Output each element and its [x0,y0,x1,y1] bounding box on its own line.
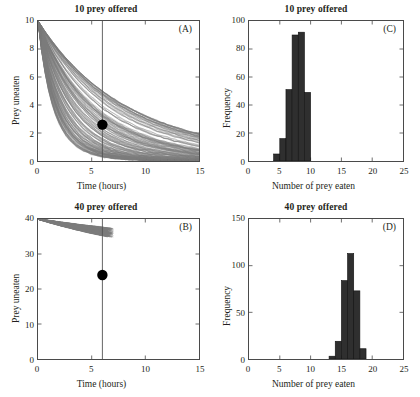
panel-c-ytick-80: 80 [225,43,245,53]
panel-a-title: 10 prey offered [0,4,212,14]
panel-d-x-axis-label: Number of prey eaten [226,379,401,389]
panel-a-letter: (A) [179,24,192,34]
panel-b-xtick-5: 5 [89,364,94,374]
panel-c-ytick-60: 60 [225,72,245,82]
panel-a-mean-marker [97,119,107,129]
panel-a-ytick-8: 8 [16,43,34,53]
histogram-bar [286,90,292,161]
histogram-bar [280,139,286,161]
panel-b-ytick-20: 20 [13,284,34,294]
panel-d-xtick-10: 10 [306,364,315,374]
panel-d-xtick-20: 20 [368,364,377,374]
panel-d-ytick-50: 50 [225,308,245,318]
panel-c-xtick-0: 0 [246,166,251,176]
panel-d-ytick-100: 100 [222,260,245,270]
panel-c-title: 10 prey offered [212,4,420,14]
panel-b-xtick-15: 15 [195,364,204,374]
panel-b-title: 40 prey offered [0,202,212,212]
panel-d-title: 40 prey offered [212,202,420,212]
panel-c-ytick-40: 40 [225,100,245,110]
panel-c-xtick-20: 20 [368,166,377,176]
histogram-bar [354,291,360,359]
histogram-bar [298,32,304,161]
histogram-bar [292,35,298,161]
panel-c-xtick-5: 5 [277,166,282,176]
panel-b-x-axis-label: Time (hours) [14,379,189,389]
panel-d-y-axis-label: Frequency [222,286,232,326]
figure-container: 10 prey offered Prey uneaten Time (hours… [0,0,420,397]
panel-a-plot-area: (A) [37,20,200,162]
panel-a-ytick-0: 0 [16,157,34,167]
panel-c-plot-area: (C) [248,20,404,162]
panel-d-xtick-0: 0 [246,364,251,374]
panel-d-xtick-15: 15 [337,364,346,374]
panel-b-ytick-30: 30 [13,249,34,259]
panel-d-ytick-0: 0 [225,355,245,365]
panel-a-ytick-4: 4 [16,100,34,110]
panel-d-xtick-25: 25 [400,364,409,374]
histogram-bar [348,254,354,359]
panel-b-plot-area: (B) [37,218,200,360]
panel-b-mean-marker [97,270,107,280]
panel-b: 40 prey offered Prey uneaten Time (hours… [0,198,212,397]
panel-c: 10 prey offered Frequency Number of prey… [212,0,420,198]
panel-c-ytick-0: 0 [225,157,245,167]
panel-a-xtick-15: 15 [195,166,204,176]
panel-d-plot-area: (D) [248,218,404,360]
panel-b-ytick-10: 10 [13,320,34,330]
panel-a-x-axis-label: Time (hours) [14,181,189,191]
panel-d-ytick-150: 150 [222,213,245,223]
panel-d-letter: (D) [383,222,396,232]
panel-c-xtick-25: 25 [400,166,409,176]
histogram-bar [335,341,341,359]
panel-c-xtick-10: 10 [306,166,315,176]
panel-a-ytick-2: 2 [16,129,34,139]
histogram-bar [329,356,335,359]
panel-b-ytick-0: 0 [16,355,34,365]
panel-b-y-axis-label: Prey uneaten [11,274,21,323]
panel-a-ytick-10: 10 [16,15,34,25]
panel-a-xtick-10: 10 [141,166,150,176]
histogram-bar [274,154,280,161]
panel-b-ytick-40: 40 [13,213,34,223]
panel-d: 40 prey offered Frequency Number of prey… [212,198,420,397]
panel-a: 10 prey offered Prey uneaten Time (hours… [0,0,212,198]
panel-c-ytick-100: 100 [222,15,245,25]
panel-c-chart [249,21,403,161]
histogram-bar [304,92,310,161]
panel-c-x-axis-label: Number of prey eaten [226,181,401,191]
panel-c-ytick-20: 20 [225,129,245,139]
panel-a-ytick-6: 6 [16,72,34,82]
histogram-bar [341,281,347,359]
panel-b-xtick-0: 0 [35,364,40,374]
panel-c-letter: (C) [383,24,396,34]
panel-c-xtick-15: 15 [337,166,346,176]
panel-a-xtick-5: 5 [89,166,94,176]
histogram-bar [360,349,366,359]
panel-d-xtick-5: 5 [277,364,282,374]
panel-a-chart [38,21,199,161]
trajectory-line [38,21,199,143]
panel-b-xtick-10: 10 [141,364,150,374]
panel-d-chart [249,219,403,359]
panel-b-chart [38,219,199,359]
panel-a-xtick-0: 0 [35,166,40,176]
panel-b-letter: (B) [179,222,192,232]
